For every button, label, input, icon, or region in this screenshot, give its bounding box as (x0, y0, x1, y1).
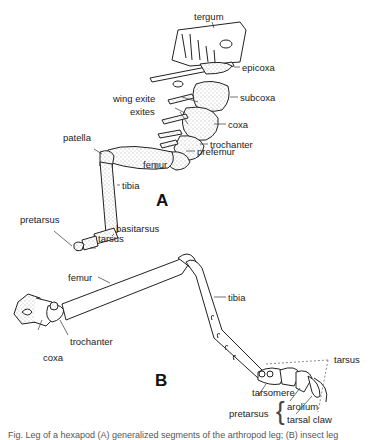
label-a-tergum: tergum (194, 12, 224, 22)
label-a-exites: exites (130, 107, 155, 117)
label-b-coxa: coxa (43, 353, 63, 363)
panel-b-drawing (14, 254, 327, 402)
panel-a-letter: A (156, 192, 168, 209)
label-a-tibia: tibia (122, 181, 139, 191)
label-b-tarsus: tarsus (334, 355, 360, 365)
label-b-pretarsus-brace: { (276, 398, 285, 424)
label-a-tarsus: tarsus (98, 234, 124, 244)
label-b-arolium: arolium (287, 402, 318, 412)
label-b-tarsal-claw: tarsal claw (287, 415, 332, 425)
label-b-pretarsus: pretarsus (229, 409, 269, 419)
label-a-epicoxa: epicoxa (242, 63, 275, 73)
figure-caption-fragment: Fig. Leg of a hexapod (A) generalized se… (8, 430, 338, 440)
label-b-tibia: tibia (228, 293, 245, 303)
label-b-tarsomere: tarsomere (252, 388, 295, 398)
label-a-wing-exite: wing exite (113, 94, 155, 104)
panel-a-drawing (74, 22, 246, 251)
label-a-patella: patella (63, 133, 91, 143)
label-a-pretarsus: pretarsus (20, 215, 60, 225)
label-a-coxa: coxa (228, 120, 248, 130)
label-a-prefemur: prefemur (197, 147, 235, 157)
label-a-subcoxa: subcoxa (240, 93, 275, 103)
panel-b-letter: B (155, 372, 167, 389)
label-a-femur: femur (143, 160, 167, 170)
label-b-femur: femur (68, 273, 92, 283)
label-b-trochanter: trochanter (70, 337, 113, 347)
